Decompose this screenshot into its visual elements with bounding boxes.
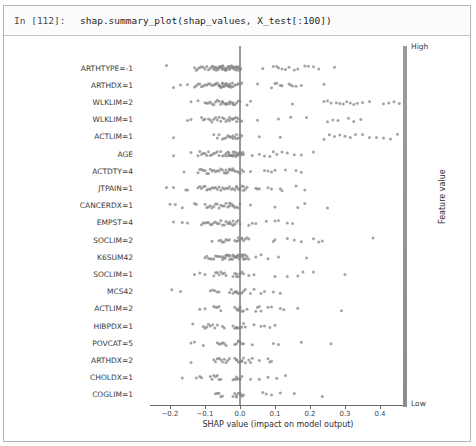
x-tick-label: 0.0 [225, 410, 255, 418]
feature-label: EMPST=4 [13, 218, 133, 227]
x-tick-mark [240, 406, 241, 409]
feature-label: ARTHTYPE=-1 [13, 64, 133, 73]
feature-label: MCS42 [13, 287, 133, 296]
feature-label: WLKLIM=2 [13, 98, 133, 107]
feature-label: HIBPDX=1 [13, 322, 133, 331]
feature-label: ACTDTY=4 [13, 167, 133, 176]
feature-label: ACTLIM=1 [13, 132, 133, 141]
feature-label: POVCAT=5 [13, 339, 133, 348]
x-axis-line [150, 405, 405, 406]
feature-label: ARTHDX=1 [13, 81, 133, 90]
x-tick-mark [345, 406, 346, 409]
colorbar-high-label: High [411, 42, 428, 51]
feature-label: SOCLIM=2 [13, 236, 133, 245]
feature-label: WLKLIM=1 [13, 115, 133, 124]
x-tick-label: 0.2 [295, 410, 325, 418]
x-tick-label: −0.1 [190, 410, 220, 418]
feature-label: SOCLIM=1 [13, 270, 133, 279]
feature-label: COGLIM=1 [13, 390, 133, 399]
jupyter-cell-output: In [112]: shap.summary_plot(shap_values,… [0, 0, 476, 446]
x-tick-label: −0.2 [155, 410, 185, 418]
feature-label: CHOLDX=1 [13, 373, 133, 382]
feature-label: CANCERDX=1 [13, 201, 133, 210]
x-tick-mark [205, 406, 206, 409]
feature-label: K6SUM42 [13, 253, 133, 262]
x-axis-title: SHAP value (impact on model output) [147, 420, 409, 429]
feature-label: ACTLIM=2 [13, 304, 133, 313]
colorbar-low-label: Low [411, 399, 426, 408]
x-tick-label: 0.4 [365, 410, 395, 418]
feature-value-colorbar [403, 46, 407, 407]
x-tick-mark [275, 406, 276, 409]
x-tick-mark [310, 406, 311, 409]
feature-label: AGE [13, 150, 133, 159]
feature-label: JTPAIN=1 [13, 184, 133, 193]
x-tick-mark [380, 406, 381, 409]
x-tick-mark [170, 406, 171, 409]
x-tick-label: 0.1 [260, 410, 290, 418]
x-tick-label: 0.3 [330, 410, 360, 418]
feature-label: ARTHDX=2 [13, 356, 133, 365]
